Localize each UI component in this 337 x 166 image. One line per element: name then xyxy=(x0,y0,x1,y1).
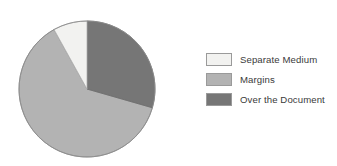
pie-chart-svg xyxy=(0,0,180,166)
legend-swatch-over-the-document xyxy=(206,93,232,106)
chart-legend: Separate Medium Margins Over the Documen… xyxy=(206,48,337,120)
pie-chart xyxy=(0,0,180,166)
legend-swatch-separate-medium xyxy=(206,53,232,66)
pie-chart-screenshot: Separate Medium Margins Over the Documen… xyxy=(0,0,337,166)
legend-label-separate-medium: Separate Medium xyxy=(240,54,317,65)
legend-swatch-margins xyxy=(206,73,232,86)
legend-item-margins[interactable]: Margins xyxy=(206,72,275,86)
legend-item-separate-medium[interactable]: Separate Medium xyxy=(206,52,317,66)
legend-item-over-the-document[interactable]: Over the Document xyxy=(206,92,325,106)
legend-label-margins: Margins xyxy=(240,74,275,85)
legend-label-over-the-document: Over the Document xyxy=(240,94,325,105)
